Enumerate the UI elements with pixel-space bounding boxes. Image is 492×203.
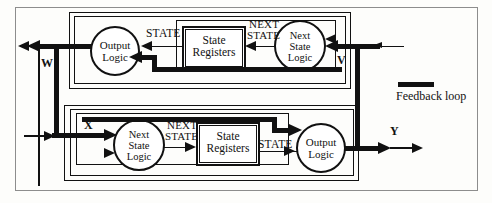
upper-next-state-logic: Next State Logic [274,20,326,72]
lower-arrowhead-state-to-output [284,146,295,156]
lower-x-input-wire-thin [24,135,46,137]
cross-coupling-riser-left [54,44,59,136]
feedback-loop-swatch [398,82,434,87]
lower-arrowhead-nsl-to-state-reg [185,142,196,152]
lower-next-state-logic: Next State Logic [113,119,165,171]
lower-output-logic-label-1: Output [306,136,337,148]
upper-nsl-label-2: State [288,41,313,52]
lower-state-registers-label-1: State [200,131,256,143]
upper-w-output-bus-horizontal [38,44,92,49]
lower-state-registers-label-2: Registers [197,143,259,155]
lower-arrowhead-y-thin [412,143,423,153]
lower-arrowhead-ring-into-nsl [104,148,115,158]
lower-y-output-bus-horizontal [344,146,382,151]
upper-feedback-bus-into-ol [140,55,156,60]
port-x-label: X [84,119,93,131]
upper-output-logic-label-2: Logic [100,51,131,63]
upper-nsl-label-3: Logic [288,52,313,63]
upper-state-registers-label-1: State [186,35,242,47]
lower-nsl-label-1: Next [127,129,152,140]
upper-arrowhead-w-thin [18,41,29,51]
upper-feedback-bus-horizontal [152,67,342,72]
lower-feedback-bus-horizontal [82,117,277,122]
diagram-canvas: State Registers Output Logic Next State … [0,0,492,203]
upper-state-registers-label-2: Registers [183,47,245,59]
upper-state-signal-label: STATE [146,28,181,40]
upper-output-logic-label-1: Output [100,39,131,51]
lower-x-input-bus-horizontal [52,133,110,138]
feedback-loop-legend-label: Feedback loop [396,90,466,102]
cross-coupling-riser-right [355,44,360,148]
cross-coupling-branch-left-thin [38,45,40,186]
upper-arrowhead-nsl-to-state-reg [245,41,256,51]
upper-next-state-signal-label-2: STATE [247,30,280,41]
upper-nsl-label-1: Next [288,30,313,41]
upper-arrowhead-v-into-machine [325,40,338,52]
lower-output-logic-label-2: Logic [306,148,337,160]
lower-nsl-label-3: Logic [127,151,152,162]
lower-arrowhead-x-into-nsl [104,129,117,141]
cross-coupling-arrowhead-right-thin [374,42,382,48]
upper-arrowhead-state-to-output [141,41,152,51]
lower-arrowhead-feedback-into-ol [289,124,302,136]
lower-next-state-signal-label-2: STATE [165,131,198,142]
port-y-label: Y [390,125,399,137]
upper-arrowhead-feedback-into-ol [129,51,142,63]
lower-nsl-label-2: State [127,140,152,151]
lower-output-logic: Output Logic [296,123,346,173]
port-v-label: V [337,54,346,66]
port-w-label: W [41,57,53,69]
